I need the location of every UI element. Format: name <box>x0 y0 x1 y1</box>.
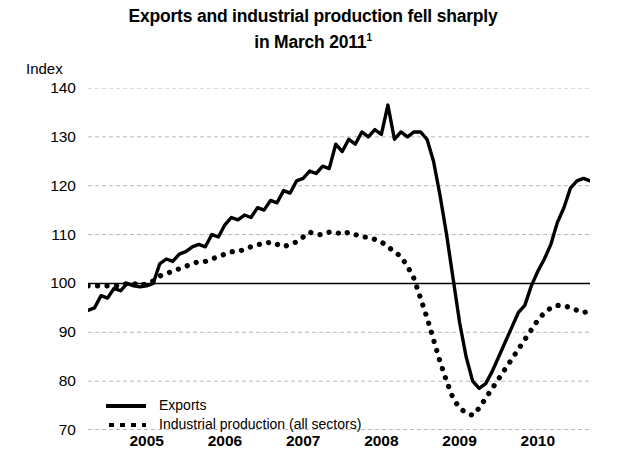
legend-item-exports: Exports <box>104 396 361 415</box>
y-axis-unit-label: Index <box>26 60 63 77</box>
x-axis-tick-2009: 2009 <box>425 433 495 449</box>
x-axis-tick-2006: 2006 <box>190 433 260 449</box>
chart-title-line1: Exports and industrial production fell s… <box>128 6 497 26</box>
series-line-exports <box>88 105 590 388</box>
legend-key-solid-line-icon <box>104 400 148 412</box>
y-axis-tick-130: 130 <box>18 129 76 145</box>
legend-key-dotted-line-icon <box>104 419 148 431</box>
legend-label-exports: Exports <box>159 396 206 415</box>
plot-area <box>88 88 590 430</box>
y-axis-tick-110: 110 <box>18 227 76 243</box>
chart-title-footnote-marker: 1 <box>366 32 371 43</box>
chart-figure: Exports and industrial production fell s… <box>0 0 626 452</box>
chart-title-line2: in March 2011 <box>254 32 366 52</box>
y-axis-tick-100: 100 <box>18 275 76 291</box>
y-axis-tick-80: 80 <box>18 373 76 389</box>
y-axis-tick-90: 90 <box>18 324 76 340</box>
x-axis-tick-2007: 2007 <box>268 433 338 449</box>
x-axis-tick-2010: 2010 <box>503 433 573 449</box>
chart-legend: Exports Industrial production (all secto… <box>104 396 361 434</box>
y-axis-tick-70: 70 <box>18 422 76 438</box>
legend-label-industrial-production: Industrial production (all sectors) <box>159 415 361 434</box>
x-axis-tick-2005: 2005 <box>112 433 182 449</box>
y-axis-tick-140: 140 <box>18 80 76 96</box>
y-axis-tick-120: 120 <box>18 178 76 194</box>
x-axis-tick-2008: 2008 <box>346 433 416 449</box>
gridlines <box>88 88 590 430</box>
chart-title: Exports and industrial production fell s… <box>0 6 626 53</box>
legend-item-industrial-production: Industrial production (all sectors) <box>104 415 361 434</box>
plot-svg <box>88 88 590 430</box>
